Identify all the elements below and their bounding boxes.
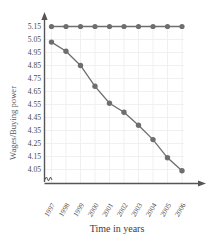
y-tick-label: 4.65 [28,87,41,96]
y-tick-label: 5.15 [28,22,41,31]
x-tick-label: 2004 [144,201,159,218]
y-tick-labels: 5.15 5.05 4.95 4.85 4.75 4.65 4.55 4.45 … [28,22,41,174]
data-point [78,24,83,29]
data-point [78,63,83,68]
data-point [121,24,126,29]
y-tick-label: 4.95 [28,48,41,57]
data-point [63,49,68,54]
y-tick-label: 4.25 [28,139,41,148]
data-point [179,168,184,173]
x-axis-title: Time in years [90,223,145,234]
x-tick-label: 1997 [43,201,58,218]
data-point [63,24,68,29]
y-tick-label: 4.15 [28,152,41,161]
x-tick-label: 1999 [72,201,87,218]
x-tick-labels: 1997 1998 1999 2000 2001 2002 2003 2004 … [43,201,188,218]
y-tick-label: 4.75 [28,74,41,83]
data-point [92,24,97,29]
x-axis-arrow-icon [198,180,206,186]
data-point [121,110,126,115]
x-tick-label: 2005 [159,201,174,218]
chart-container: 5.15 5.05 4.95 4.85 4.75 4.65 4.55 4.45 … [0,0,217,243]
x-tick-label: 2001 [101,201,116,218]
x-tick-label: 2000 [86,201,101,218]
data-point [136,123,141,128]
data-point [150,24,155,29]
x-tick-label: 2003 [130,201,145,218]
x-tick-label: 2002 [115,201,130,218]
data-point [49,24,54,29]
data-point [107,24,112,29]
y-axis-arrow-icon [41,12,47,20]
y-axis-title: Wages/Buying power [8,86,18,160]
data-point [179,24,184,29]
data-point [165,24,170,29]
y-tick-label: 4.35 [28,126,41,135]
y-tick-label: 4.05 [28,165,41,174]
x-tick-label: 1998 [57,201,72,218]
data-point [165,155,170,160]
line-chart: 5.15 5.05 4.95 4.85 4.75 4.65 4.55 4.45 … [0,0,217,243]
data-point [107,101,112,106]
y-tick-label: 5.05 [28,35,41,44]
x-tick-label: 2006 [173,201,188,218]
y-tick-label: 4.55 [28,100,41,109]
data-point [136,24,141,29]
data-point [49,39,54,44]
data-point [92,84,97,89]
y-tick-label: 4.45 [28,113,41,122]
data-point [150,137,155,142]
y-tick-label: 4.85 [28,61,41,70]
